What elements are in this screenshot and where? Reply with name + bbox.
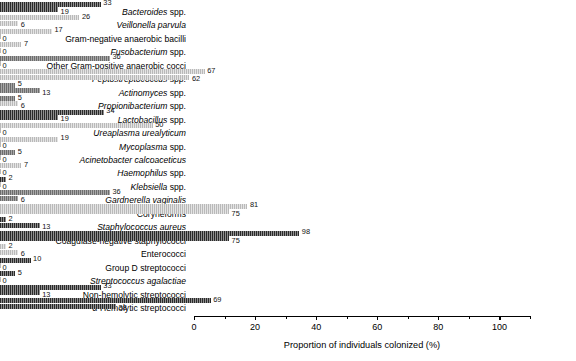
- bar-lower: [0, 182, 1, 187]
- bar-row-lower: 13: [0, 88, 336, 93]
- bar-row-lower: 0: [0, 34, 336, 39]
- bar-lower: [0, 196, 18, 201]
- bar-group: 70: [0, 40, 336, 53]
- bar-value-label-upper: 34: [106, 107, 114, 115]
- x-axis-tick-label: 60: [362, 322, 392, 332]
- x-axis-line: [194, 316, 530, 317]
- bar-value-label-upper: 17: [54, 26, 62, 34]
- bar-row-upper: 33: [0, 2, 336, 7]
- bar-row-upper: 10: [0, 258, 336, 263]
- bar-value-label-upper: 10: [33, 255, 41, 263]
- bar-row-upper: 2: [0, 217, 336, 222]
- x-axis-tick: [316, 316, 317, 320]
- bar-row-lower: 62: [0, 75, 336, 80]
- bar-upper: [0, 217, 6, 222]
- bar-row-lower: 6: [0, 250, 336, 255]
- bar-lower: [0, 223, 40, 228]
- bar-value-label-upper: 26: [82, 13, 90, 21]
- bar-upper: [0, 69, 205, 74]
- bar-lower: [0, 7, 58, 12]
- bar-lower: [0, 48, 1, 53]
- x-axis-tick-label: 100: [484, 322, 514, 332]
- bar-row-lower: 13: [0, 290, 336, 295]
- bar-row-upper: 5: [0, 271, 336, 276]
- bar-group: 513: [0, 81, 336, 94]
- horizontal-bar-chart: Bacteroides spp.Veillonella parvulaGram-…: [0, 0, 576, 361]
- bar-upper: [0, 285, 101, 290]
- bar-group: 50: [0, 148, 336, 161]
- bar-row-upper: 81: [0, 204, 336, 209]
- bar-group: 366: [0, 189, 336, 202]
- bar-lower: [0, 101, 18, 106]
- bar-value-label-upper: 36: [112, 53, 120, 61]
- bar-row-upper: 36: [0, 190, 336, 195]
- bar-group: 6938: [0, 297, 336, 310]
- bar-upper: [0, 2, 101, 7]
- bar-upper: [0, 137, 58, 142]
- bar-group: 3319: [0, 0, 336, 13]
- bar-row-lower: 0: [0, 182, 336, 187]
- bar-lower: [0, 209, 229, 214]
- bar-group: 3419: [0, 108, 336, 121]
- bar-group: 6762: [0, 67, 336, 80]
- bar-value-label-upper: 98: [302, 228, 310, 236]
- bar-upper: [0, 15, 79, 20]
- bar-row-upper: 5: [0, 96, 336, 101]
- bar-lower: [0, 61, 1, 66]
- x-axis-minor-tick: [347, 316, 348, 319]
- bar-lower: [0, 155, 1, 160]
- bar-row-lower: 0: [0, 128, 336, 133]
- x-axis-tick: [438, 316, 439, 320]
- bar-row-upper: 2: [0, 177, 336, 182]
- bar-lower: [0, 290, 40, 295]
- bar-row-upper: 26: [0, 15, 336, 20]
- x-axis-tick-label: 20: [240, 322, 270, 332]
- bar-row-lower: 0: [0, 142, 336, 147]
- bar-row-upper: 34: [0, 110, 336, 115]
- bar-row-lower: 19: [0, 115, 336, 120]
- x-axis-minor-tick: [286, 316, 287, 319]
- bar-upper: [0, 244, 6, 249]
- bar-row-lower: 0: [0, 263, 336, 268]
- bar-upper: [0, 83, 15, 88]
- bar-value-label-lower: 38: [119, 304, 127, 312]
- bar-lower: [0, 128, 1, 133]
- bar-row-upper: 7: [0, 163, 336, 168]
- bar-group: 50: [0, 270, 336, 283]
- bar-group: 190: [0, 135, 336, 148]
- bar-lower: [0, 34, 1, 39]
- x-axis-minor-tick: [530, 316, 531, 319]
- bar-value-label-upper: 19: [61, 134, 69, 142]
- bar-upper: [0, 96, 15, 101]
- bar-row-lower: 19: [0, 7, 336, 12]
- x-axis-tick: [499, 316, 500, 320]
- bar-group: 56: [0, 94, 336, 107]
- bar-value-label-upper: 33: [103, 282, 111, 290]
- bar-value-label-upper: 50: [155, 121, 163, 129]
- bar-row-lower: 6: [0, 196, 336, 201]
- bar-row-upper: 67: [0, 69, 336, 74]
- bar-row-upper: 98: [0, 231, 336, 236]
- x-axis-tick: [377, 316, 378, 320]
- bar-value-label-upper: 67: [207, 67, 215, 75]
- bar-group: 3313: [0, 283, 336, 296]
- x-axis-minor-tick: [469, 316, 470, 319]
- bar-row-lower: 0: [0, 169, 336, 174]
- bar-row-upper: 69: [0, 298, 336, 303]
- bar-upper: [0, 110, 104, 115]
- bar-value-label-upper: 7: [24, 161, 28, 169]
- bar-lower: [0, 21, 18, 26]
- bar-row-lower: 6: [0, 101, 336, 106]
- x-axis-tick-label: 40: [301, 322, 331, 332]
- bar-group: 170: [0, 27, 336, 40]
- bar-value-label-upper: 5: [18, 269, 22, 277]
- bar-group: 213: [0, 216, 336, 229]
- bar-row-upper: 5: [0, 150, 336, 155]
- bar-group: 20: [0, 175, 336, 188]
- bar-value-label-upper: 5: [18, 148, 22, 156]
- bar-upper: [0, 204, 247, 209]
- bar-row-lower: 75: [0, 236, 336, 241]
- bar-upper: [0, 190, 110, 195]
- bar-row-lower: 0: [0, 277, 336, 282]
- bar-group: 360: [0, 54, 336, 67]
